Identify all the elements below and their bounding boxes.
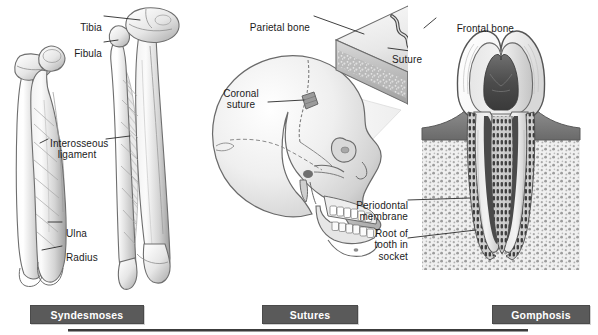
- label-ulna-text: Ulna: [66, 228, 87, 239]
- label-interosseous-ligament: Interosseous ligament: [50, 126, 104, 161]
- label-fibula: Fibula: [44, 36, 102, 59]
- label-ulna: Ulna: [66, 216, 114, 239]
- caption-syndesmoses: Syndesmoses: [30, 305, 144, 324]
- label-interosseous-ligament-text: Interosseous ligament: [50, 138, 108, 161]
- label-frontal-bone: Frontal bone: [434, 11, 514, 34]
- label-coronal-suture-text: Coronal suture: [223, 88, 259, 111]
- caption-sutures: Sutures: [262, 305, 358, 324]
- label-radius-text: Radius: [66, 252, 98, 263]
- label-fibula-text: Fibula: [74, 48, 102, 59]
- label-tibia-text: Tibia: [80, 22, 102, 33]
- caption-gomphosis-text: Gomphosis: [511, 309, 571, 321]
- label-parietal-bone: Parietal bone: [244, 10, 310, 33]
- label-parietal-bone-text: Parietal bone: [250, 22, 310, 33]
- panel-syndesmoses: Tibia Fibula Interosseous ligament Ulna …: [0, 0, 200, 300]
- bottom-rule: [68, 329, 528, 332]
- label-coronal-suture: Coronal suture: [216, 76, 266, 111]
- caption-gomphosis: Gomphosis: [492, 305, 590, 324]
- label-radius: Radius: [66, 240, 120, 263]
- label-frontal-bone-text: Frontal bone: [457, 23, 514, 34]
- label-root-of-tooth-in-socket: Root of tooth in socket: [360, 216, 408, 262]
- label-tibia: Tibia: [48, 10, 102, 33]
- panel-gomphosis: Frontal bone Periodontal membrane Root o…: [404, 0, 598, 300]
- label-root-of-tooth-in-socket-text: Root of tooth in socket: [374, 228, 408, 262]
- caption-syndesmoses-text: Syndesmoses: [51, 309, 124, 321]
- gomphosis-illustration: [404, 0, 598, 300]
- fibrous-joints-figure: Tibia Fibula Interosseous ligament Ulna …: [0, 0, 598, 335]
- caption-sutures-text: Sutures: [290, 309, 331, 321]
